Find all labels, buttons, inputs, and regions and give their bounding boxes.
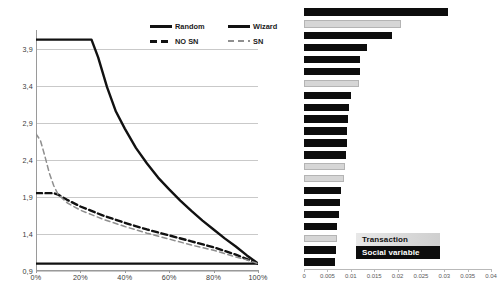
legend-item-wizard: Wizard [228,22,277,31]
x-tick-label: 0.035 [460,273,475,279]
bar-row [304,32,500,39]
x-tick-label: 0.04 [485,273,496,279]
x-tick-mark [214,270,215,273]
x-tick-label: 0.03 [439,273,450,279]
legend-swatch-icon [228,22,250,31]
y-tick-label: 2,9 [22,118,33,127]
bar-row [304,139,500,146]
bar-row [304,258,500,265]
x-tick-label: 0.02 [392,273,403,279]
bar-transaction [304,80,359,87]
line-chart: 3,93,42,92,41,91,40,9 0%20%40%60%80%100%… [0,0,300,295]
bar-social [304,187,341,194]
bar-social [304,56,360,63]
x-tick-mark [374,269,375,272]
bar-row [304,163,500,170]
legend-label-social-variable: Social variable [362,248,420,257]
y-tick-label: 3,9 [22,44,33,53]
x-tick-mark [398,269,399,272]
bar-row [304,92,500,99]
line-chart-legend: RandomWizardNO SNSN [150,22,296,56]
bar-social [304,246,336,253]
bar-social [304,92,351,99]
legend-item-transaction: Transaction [356,233,440,246]
bar-row [304,223,500,230]
bar-row [304,115,500,122]
y-tick-label: 1,9 [22,192,33,201]
x-tick-mark [351,269,352,272]
legend-label: Random [175,22,205,31]
y-tick-label: 2,4 [22,155,33,164]
bar-transaction [304,20,401,27]
x-tick-mark [125,270,126,273]
bar-social [304,223,337,230]
x-tick-mark [421,269,422,272]
legend-label-transaction: Transaction [362,235,408,244]
bar-chart-x-axis-labels: 00.0050.010.0150.020.0250.030.0350.04 [300,273,503,287]
x-tick-label: 0.01 [345,273,356,279]
bar-row [304,175,500,182]
bar-transaction [304,235,337,242]
bar-social [304,68,360,75]
bar-social [304,211,339,218]
x-tick-mark [169,270,170,273]
bar-chart-plot-area [304,6,500,268]
x-tick-label: 0% [31,273,42,282]
x-tick-label: 0.025 [414,273,429,279]
bar-row [304,127,500,134]
bar-social [304,199,340,206]
x-tick-label: 60% [162,273,177,282]
bar-social [304,127,347,134]
bar-row [304,56,500,63]
x-tick-label: 20% [73,273,88,282]
bar-social [304,258,335,265]
x-tick-mark [304,269,305,272]
bar-transaction [304,175,344,182]
x-tick-label: 0.015 [367,273,382,279]
bar-social [304,104,349,111]
legend-item-sn: SN [228,37,263,46]
x-tick-label: 40% [117,273,132,282]
x-tick-mark [491,269,492,272]
bar-row [304,80,500,87]
legend-label: Wizard [253,22,277,31]
bar-row [304,44,500,51]
legend-swatch-icon [150,22,172,31]
x-tick-label: 0 [302,273,305,279]
figure-container: 3,93,42,92,41,91,40,9 0%20%40%60%80%100%… [0,0,503,295]
bar-social [304,151,346,158]
legend-swatch-icon [150,37,172,46]
x-tick-mark [258,270,259,273]
bar-social [304,44,367,51]
bar-row [304,68,500,75]
bar-row [304,199,500,206]
bar-row [304,20,500,27]
bar-row [304,211,500,218]
gridline-y [36,271,258,272]
series-line-sn [36,134,258,264]
x-tick-mark [327,269,328,272]
bar-transaction [304,163,345,170]
bar-social [304,32,392,39]
line-chart-series-layer [36,30,258,271]
bar-social [304,8,448,15]
bar-social [304,139,347,146]
line-chart-y-axis-labels: 3,93,42,92,41,91,40,9 [0,30,33,271]
bar-social [304,115,348,122]
x-tick-label: 0.005 [320,273,335,279]
x-tick-label: 100% [248,273,267,282]
bar-chart: 00.0050.010.0150.020.0250.030.0350.04 Tr… [300,0,503,295]
bar-chart-legend: Transaction Social variable [356,233,440,259]
bar-row [304,151,500,158]
legend-swatch-icon [228,37,250,46]
y-tick-label: 1,4 [22,229,33,238]
legend-item-no-sn: NO SN [150,37,198,46]
legend-label: SN [253,37,263,46]
bar-row [304,8,500,15]
x-tick-mark [80,270,81,273]
legend-item-random: Random [150,22,205,31]
x-tick-mark [444,269,445,272]
legend-label: NO SN [175,37,198,46]
y-tick-label: 3,4 [22,81,33,90]
line-chart-x-axis-labels: 0%20%40%60%80%100% [36,273,259,287]
